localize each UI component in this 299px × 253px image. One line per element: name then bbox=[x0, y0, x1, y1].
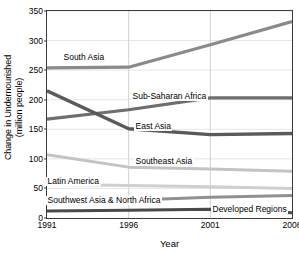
x-axis-tick-label: 2006 bbox=[283, 220, 299, 230]
x-axis-tick-label: 1996 bbox=[119, 220, 138, 230]
y-axis-tick-mark bbox=[44, 40, 47, 41]
x-axis-title: Year bbox=[40, 238, 299, 249]
y-axis-tick-label: 50 bbox=[34, 183, 43, 193]
series-label-south-asia: South Asia bbox=[62, 53, 106, 62]
x-axis-tick-label: 2001 bbox=[201, 220, 220, 230]
y-axis-title: Change in Undernourished (million people… bbox=[3, 18, 24, 198]
plot-area: 0501001502002503003501991199620012006 bbox=[46, 10, 293, 219]
series-label-east-asia: East Asia bbox=[134, 122, 172, 131]
y-axis-title-line-2: (million people) bbox=[13, 18, 24, 198]
y-axis-tick-mark bbox=[44, 99, 47, 100]
line-chart: Change in Undernourished (million people… bbox=[0, 0, 299, 253]
y-axis-tick-label: 100 bbox=[29, 154, 43, 164]
series-label-developed-regions: Developed Regions bbox=[211, 205, 288, 214]
series-label-sub-saharan-africa: Sub-Saharan Africa bbox=[131, 92, 208, 101]
plot-svg bbox=[47, 11, 292, 218]
y-axis-tick-mark bbox=[44, 129, 47, 130]
y-axis-tick-mark bbox=[44, 158, 47, 159]
y-axis-tick-label: 200 bbox=[29, 95, 43, 105]
y-axis-tick-label: 250 bbox=[29, 65, 43, 75]
y-axis-tick-mark bbox=[44, 188, 47, 189]
y-axis-tick-label: 150 bbox=[29, 124, 43, 134]
y-axis-tick-mark bbox=[44, 11, 47, 12]
y-axis-tick-mark bbox=[44, 70, 47, 71]
series-label-southeast-asia: Southeast Asia bbox=[134, 157, 194, 166]
y-axis-tick-label: 350 bbox=[29, 6, 43, 16]
series-label-southwest-asia-north-africa: Southwest Asia & North Africa bbox=[46, 196, 162, 205]
y-axis-tick-label: 300 bbox=[29, 36, 43, 46]
y-axis-tick-mark bbox=[44, 218, 47, 219]
series-label-latin-america: Latin America bbox=[46, 177, 101, 186]
y-axis-title-line-1: Change in Undernourished bbox=[3, 18, 14, 198]
x-axis-tick-label: 1991 bbox=[38, 220, 57, 230]
